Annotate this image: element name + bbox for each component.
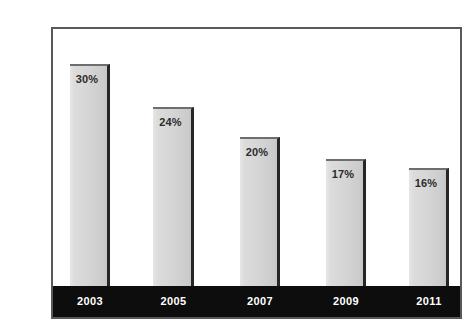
axis-label-2007: 2007 bbox=[240, 286, 280, 317]
bar-group-2005: 24% bbox=[153, 29, 194, 286]
axis-label-2009: 2009 bbox=[326, 286, 366, 317]
plot-area: 30% 24% 20% 17% 16% bbox=[53, 29, 460, 286]
axis-label-2011: 2011 bbox=[409, 286, 449, 317]
bar-2007[interactable]: 20% bbox=[240, 137, 280, 286]
bar-group-2003: 30% bbox=[70, 29, 110, 286]
bar-value-label-2005: 24% bbox=[153, 116, 188, 128]
category-axis-band: 2003 2005 2007 2009 2011 bbox=[53, 286, 460, 317]
bar-value-label-2009: 17% bbox=[326, 168, 360, 180]
bar-value-label-2003: 30% bbox=[70, 73, 104, 85]
bar-2011[interactable]: 16% bbox=[409, 168, 449, 286]
axis-label-2005: 2005 bbox=[153, 286, 194, 317]
axis-label-2003: 2003 bbox=[70, 286, 110, 317]
bar-group-2011: 16% bbox=[409, 29, 449, 286]
bar-group-2009: 17% bbox=[326, 29, 366, 286]
bar-2005[interactable]: 24% bbox=[153, 107, 194, 286]
bar-value-label-2011: 16% bbox=[409, 177, 443, 189]
chart-frame: 30% 24% 20% 17% 16% bbox=[51, 27, 462, 319]
bar-2003[interactable]: 30% bbox=[70, 64, 110, 286]
bar-chart-figure: 30% 24% 20% 17% 16% bbox=[40, 16, 466, 323]
bar-value-label-2007: 20% bbox=[240, 146, 274, 158]
bar-group-2007: 20% bbox=[240, 29, 280, 286]
bar-2009[interactable]: 17% bbox=[326, 159, 366, 286]
